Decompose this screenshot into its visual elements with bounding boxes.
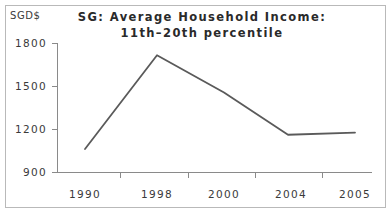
y-tick-label-1200: 1200 <box>5 123 47 135</box>
plot-area: 1800 1500 1200 900 1990 1998 2000 2004 2… <box>0 0 392 214</box>
y-tick-label-1800: 1800 <box>5 37 47 49</box>
x-tick-label-2000: 2000 <box>194 188 254 200</box>
chart-figure: SGD$ SG: Average Household Income: 11th–… <box>0 0 392 214</box>
data-series-line <box>85 55 355 149</box>
x-tick-label-2005: 2005 <box>325 188 385 200</box>
x-tick-label-1998: 1998 <box>127 188 187 200</box>
x-tick-label-2004: 2004 <box>261 188 321 200</box>
y-tick-label-900: 900 <box>5 166 47 178</box>
plot-svg <box>0 0 392 214</box>
x-tick-label-1990: 1990 <box>55 188 115 200</box>
y-tick-label-1500: 1500 <box>5 80 47 92</box>
